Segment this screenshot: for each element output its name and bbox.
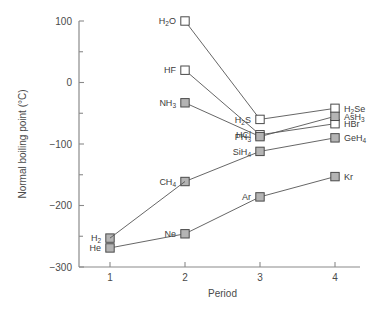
data-point-label: SiH4: [233, 147, 252, 158]
y-tick-label: −200: [49, 200, 72, 211]
data-point-marker: [181, 17, 189, 25]
data-point-marker: [331, 172, 339, 180]
data-point-marker: [181, 99, 189, 107]
y-axis-title: Normal boiling point (°C): [17, 89, 28, 198]
x-tick-label: 2: [182, 272, 188, 283]
data-point-label: NH3: [159, 98, 176, 109]
series: HeNeArKr: [89, 172, 353, 253]
x-axis-title: Period: [208, 288, 237, 299]
data-point-marker: [106, 244, 114, 252]
y-tick-label: 0: [66, 77, 72, 88]
data-point-marker: [256, 147, 264, 155]
x-tick-label: 1: [107, 272, 113, 283]
data-point-marker: [331, 112, 339, 120]
series: H2OH2SH2Se: [159, 16, 365, 125]
data-point-marker: [181, 66, 189, 74]
boiling-point-chart: 1000−100−200−3001234PeriodNormal boiling…: [0, 0, 383, 313]
data-point-label: He: [89, 243, 101, 253]
y-tick-label: −300: [49, 262, 72, 273]
data-point-marker: [331, 104, 339, 112]
data-point-marker: [256, 193, 264, 201]
data-point-label: H2: [91, 233, 102, 244]
data-point-label: GeH4: [344, 133, 367, 144]
chart-canvas: 1000−100−200−3001234PeriodNormal boiling…: [0, 0, 383, 313]
x-tick-label: 4: [332, 272, 338, 283]
data-point-marker: [256, 132, 264, 140]
data-point-marker: [181, 230, 189, 238]
y-tick-label: −100: [49, 139, 72, 150]
series-group: H2OH2SH2SeHFHClHBrNH3PH3AsH3CH4SiH4GeH4H…: [89, 16, 366, 253]
svg-text:Normal boiling point (°C): Normal boiling point (°C): [17, 89, 28, 198]
data-point-marker: [256, 115, 264, 123]
data-point-label: CH4: [159, 177, 176, 188]
x-tick-label: 3: [257, 272, 263, 283]
data-point-marker: [331, 134, 339, 142]
data-point-label: Kr: [344, 172, 353, 182]
data-point-label: H2O: [159, 16, 176, 27]
series: H2: [91, 233, 114, 244]
series-line: [185, 21, 335, 119]
data-point-label: Ne: [164, 229, 176, 239]
series-line: [185, 138, 335, 182]
y-tick-label: 100: [55, 16, 72, 27]
data-point-label: Ar: [242, 192, 251, 202]
data-point-label: HF: [164, 65, 176, 75]
series: HFHClHBr: [164, 65, 360, 140]
axes: 1000−100−200−3001234Period: [49, 16, 360, 300]
series-line: [185, 70, 335, 135]
